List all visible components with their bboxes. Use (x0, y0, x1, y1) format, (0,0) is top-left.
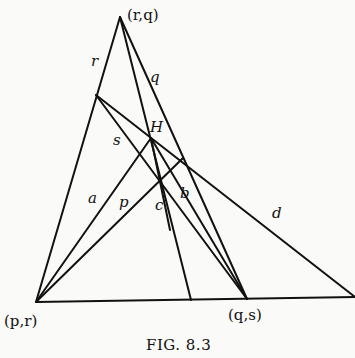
baseline (36, 297, 355, 302)
line-d (96, 95, 355, 297)
label-apex: (r,q) (127, 6, 159, 24)
label-b: b (180, 184, 190, 202)
label-H: H (149, 118, 164, 136)
line-c (151, 138, 170, 230)
label-s: s (113, 131, 121, 149)
label-p: p (119, 193, 129, 211)
line-a (36, 138, 151, 302)
figure-caption: FIG. 8.3 (146, 336, 211, 354)
line-r (36, 17, 120, 302)
label-c: c (155, 196, 164, 214)
label-bottom-left: (p,r) (4, 312, 37, 330)
label-bottom-mid: (q,s) (228, 306, 262, 324)
line-b (151, 138, 247, 299)
label-d: d (272, 204, 282, 222)
label-q: q (150, 68, 160, 86)
projective-diagram: (r,q) (p,r) (q,s) H r q s a p c b d FIG.… (0, 0, 355, 358)
label-r: r (91, 52, 99, 70)
label-a: a (88, 189, 97, 207)
